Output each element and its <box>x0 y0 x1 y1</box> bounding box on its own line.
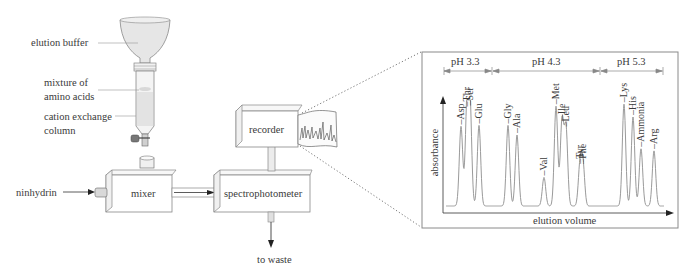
column-icon <box>131 63 156 146</box>
flow-pipe <box>172 188 216 197</box>
peak-label: –Ala <box>511 113 522 134</box>
mixer-label: mixer <box>131 187 156 200</box>
peak-label: –Glu <box>473 103 484 124</box>
spectrophotometer-box <box>214 170 312 248</box>
ph-label-3: pH 5.3 <box>617 55 646 68</box>
y-axis-label: absorbance <box>428 123 441 183</box>
apparatus-drawing: –Asp–Thr–Ser–Glu–Gly–Ala–Val–Met–Ile–Leu… <box>0 0 695 274</box>
ph-label-1: pH 3.3 <box>451 55 480 68</box>
chromatogram-panel: –Asp–Thr–Ser–Glu–Gly–Ala–Val–Met–Ile–Leu… <box>422 52 678 228</box>
spectrophotometer-label: spectrophotometer <box>224 187 302 200</box>
mixture-label-line2: amino acids <box>44 90 94 103</box>
peak-label: –Met <box>550 83 561 105</box>
peak-label: –Ser <box>464 86 475 106</box>
mixture-label-line1: mixture of <box>44 76 88 89</box>
peak-label: –Phe <box>577 143 588 165</box>
column-label-line1: cation exchange <box>44 110 112 123</box>
peak-label: –Ammonia <box>635 101 646 148</box>
peak-label: –Leu <box>560 106 571 128</box>
column-label-line2: column <box>44 124 76 137</box>
leader-lines <box>98 43 139 116</box>
ninhydrin-label: ninhydrin <box>16 186 57 199</box>
ph-label-2: pH 4.3 <box>532 55 561 68</box>
peak-label: –Arg <box>648 129 659 150</box>
peak-label: –Val <box>538 157 549 177</box>
mixer-box <box>95 156 176 212</box>
to-waste-label: to waste <box>257 253 292 266</box>
ninhydrin-arrow <box>63 189 95 195</box>
recorder-label: recorder <box>249 123 284 136</box>
elution-buffer-label: elution buffer <box>31 36 88 49</box>
x-axis-label: elution volume <box>533 214 596 227</box>
funnel-icon <box>120 17 170 63</box>
